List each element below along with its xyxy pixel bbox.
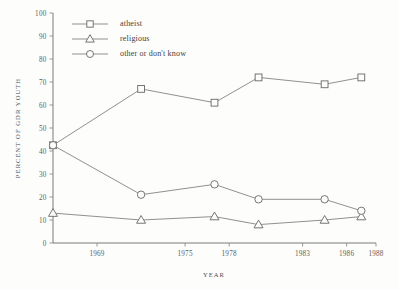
y-tick-label: 0 — [43, 240, 47, 248]
y-axis-title: PERCENT OF GDR YOUTH — [14, 78, 21, 178]
x-tick-label: 1988 — [368, 250, 383, 258]
circle-marker — [87, 51, 94, 58]
y-tick-label: 30 — [39, 171, 47, 179]
chart-legend: atheistreligiousother or don't know — [72, 19, 186, 58]
x-tick-label: 1978 — [222, 250, 237, 258]
y-tick-label: 60 — [39, 102, 47, 110]
series-line — [53, 213, 361, 225]
y-tick-label: 10 — [39, 217, 47, 225]
series-atheist — [50, 74, 365, 149]
series-line — [53, 145, 361, 211]
y-tick-label: 20 — [39, 194, 47, 202]
circle-marker — [137, 191, 144, 198]
y-tick-label: 40 — [39, 148, 47, 156]
chart-container: 0102030405060708090100 19691975197819831… — [0, 0, 399, 290]
circle-marker — [211, 181, 218, 188]
y-axis-ticks: 0102030405060708090100 — [35, 10, 53, 248]
line-chart: 0102030405060708090100 19691975197819831… — [0, 0, 399, 290]
circle-marker — [255, 196, 262, 203]
y-tick-label: 90 — [39, 33, 47, 41]
x-tick-label: 1975 — [178, 250, 193, 258]
triangle-marker — [86, 35, 95, 42]
x-tick-label: 1986 — [339, 250, 354, 258]
y-tick-label: 80 — [39, 56, 47, 64]
x-axis-ticks: 196919751978198319861988 — [89, 243, 383, 258]
triangle-marker — [49, 209, 58, 217]
circle-marker — [49, 142, 56, 149]
legend-item: other or don't know — [72, 49, 186, 58]
square-marker — [255, 74, 262, 81]
square-marker — [358, 74, 365, 81]
legend-label: atheist — [120, 19, 143, 28]
series-other-or-don-t-know — [49, 142, 365, 215]
x-tick-label: 1969 — [89, 250, 104, 258]
legend-item: religious — [72, 34, 150, 43]
triangle-marker — [210, 212, 219, 220]
legend-label: other or don't know — [120, 49, 186, 58]
y-tick-label: 70 — [39, 79, 47, 87]
data-series-group — [49, 74, 366, 228]
square-marker — [87, 21, 93, 27]
circle-marker — [321, 196, 328, 203]
square-marker — [321, 81, 328, 88]
legend-item: atheist — [72, 19, 143, 28]
square-marker — [211, 99, 218, 106]
y-tick-label: 50 — [39, 125, 47, 133]
circle-marker — [358, 207, 365, 214]
y-tick-label: 100 — [35, 10, 47, 18]
x-tick-label: 1983 — [295, 250, 310, 258]
legend-label: religious — [120, 34, 150, 43]
square-marker — [138, 86, 145, 93]
x-axis-title: YEAR — [203, 271, 225, 278]
series-line — [53, 77, 361, 145]
series-religious — [49, 209, 366, 228]
